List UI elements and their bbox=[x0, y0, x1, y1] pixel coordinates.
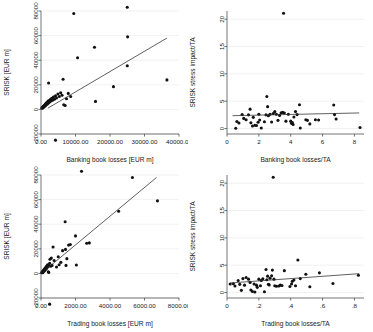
data-point bbox=[238, 283, 241, 286]
y-axis-title: SRISK stress impact/TA bbox=[189, 201, 197, 272]
x-axis-title: Trading book losses [EUR m] bbox=[67, 320, 153, 328]
data-point bbox=[241, 277, 244, 280]
data-point bbox=[272, 176, 275, 179]
data-point bbox=[294, 284, 297, 287]
panel-bottom-left-x-ticks: 0.002000.004000.006000.008000.00 bbox=[35, 298, 188, 309]
data-point bbox=[131, 176, 134, 179]
panel-bottom-left-svg: -200000200004000060000800000.002000.0040… bbox=[0, 164, 188, 332]
data-point bbox=[165, 78, 168, 81]
y-tick-label: 40000 bbox=[32, 51, 39, 69]
y-tick-label: 0 bbox=[32, 107, 39, 111]
y-tick-label: 5 bbox=[218, 99, 225, 103]
y-tick-label: 0 bbox=[218, 290, 225, 294]
data-point bbox=[308, 122, 311, 125]
data-point bbox=[72, 12, 75, 15]
chart-panel-bottom-left: -200000200004000060000800000.002000.0040… bbox=[0, 164, 188, 332]
data-point bbox=[335, 117, 338, 120]
data-point bbox=[62, 78, 65, 81]
x-tick-label: .8 bbox=[352, 302, 358, 309]
x-axis-title: Trading book losses/TA bbox=[261, 320, 330, 328]
data-point bbox=[76, 56, 79, 59]
data-point bbox=[93, 46, 96, 49]
data-point bbox=[263, 120, 266, 123]
data-point bbox=[264, 268, 267, 271]
data-point bbox=[276, 119, 279, 122]
data-point bbox=[308, 285, 311, 288]
x-axis-title: Banking book losses/TA bbox=[260, 156, 331, 164]
y-tick-label: 15 bbox=[218, 207, 225, 214]
data-point bbox=[243, 284, 246, 287]
y-axis-title: SRISK [EUR m] bbox=[3, 49, 11, 96]
data-point bbox=[94, 100, 97, 103]
data-point bbox=[260, 126, 263, 129]
data-point bbox=[284, 120, 287, 123]
y-tick-label: 20 bbox=[218, 179, 225, 186]
data-point bbox=[126, 35, 129, 38]
data-point bbox=[54, 139, 57, 142]
data-point bbox=[64, 220, 67, 223]
data-point bbox=[249, 121, 252, 124]
chart-panel-bottom-right: 051015200.2.4.6.8Trading book losses/TAS… bbox=[186, 164, 373, 332]
data-point bbox=[240, 289, 243, 292]
data-point bbox=[156, 199, 159, 202]
x-tick-label: 4 bbox=[289, 138, 293, 145]
y-tick-label: 60000 bbox=[32, 190, 39, 208]
y-tick-label: 20000 bbox=[32, 240, 39, 258]
x-tick-label: 0.00 bbox=[35, 302, 48, 309]
data-point bbox=[283, 111, 286, 114]
y-axis-title: SRISK stress impact/TA bbox=[189, 37, 197, 108]
panel-bottom-left-y-ticks: -20000020000400006000080000 bbox=[32, 166, 41, 308]
data-point bbox=[237, 122, 240, 125]
data-point bbox=[48, 262, 51, 265]
y-tick-label: 20 bbox=[218, 15, 225, 22]
x-tick-label: 6 bbox=[321, 138, 325, 145]
y-tick-label: 80000 bbox=[32, 2, 39, 20]
data-point bbox=[126, 6, 129, 9]
panel-bottom-right-svg: 051015200.2.4.6.8Trading book losses/TAS… bbox=[186, 164, 373, 332]
panel-top-right-x-ticks: 02468 bbox=[225, 134, 356, 145]
x-tick-label: 0 bbox=[225, 302, 229, 309]
data-point bbox=[270, 274, 273, 277]
data-point bbox=[88, 241, 91, 244]
data-point bbox=[331, 282, 334, 285]
x-tick-label: 2 bbox=[257, 138, 261, 145]
data-point bbox=[50, 256, 53, 259]
x-tick-label: 20000.00 bbox=[97, 138, 123, 145]
data-point bbox=[261, 277, 264, 280]
data-point bbox=[64, 104, 67, 107]
panel-top-right-y-ticks: 05101520 bbox=[218, 15, 227, 130]
data-point bbox=[255, 124, 258, 127]
data-point bbox=[52, 245, 55, 248]
regression-fit-line bbox=[48, 38, 167, 108]
data-point bbox=[58, 95, 61, 98]
data-point bbox=[266, 275, 269, 278]
data-point bbox=[332, 103, 335, 106]
data-point bbox=[64, 248, 67, 251]
data-point bbox=[48, 303, 51, 306]
y-tick-label: 0 bbox=[218, 126, 225, 130]
data-point bbox=[270, 120, 273, 123]
data-point bbox=[304, 273, 307, 276]
y-tick-label: 20000 bbox=[32, 76, 39, 94]
panel-bottom-right-points bbox=[229, 176, 360, 294]
panel-top-left-y-ticks: -20000020000400006000080000 bbox=[32, 2, 41, 144]
data-point bbox=[358, 126, 361, 129]
data-point bbox=[245, 118, 248, 121]
data-point bbox=[55, 96, 58, 99]
data-point bbox=[298, 103, 301, 106]
data-point bbox=[55, 265, 58, 268]
data-point bbox=[318, 271, 321, 274]
x-axis-title: Banking book losses [EUR m] bbox=[66, 156, 153, 164]
y-tick-label: 80000 bbox=[32, 166, 39, 184]
panel-top-left-x-ticks: 0.0010000.0020000.0030000.0040000.00 bbox=[35, 134, 188, 145]
y-tick-label: 0 bbox=[32, 271, 39, 275]
data-point bbox=[290, 283, 293, 286]
data-point bbox=[67, 92, 70, 95]
panel-bottom-right-y-ticks: 05101520 bbox=[218, 179, 227, 294]
data-point bbox=[292, 116, 295, 119]
data-point bbox=[59, 261, 62, 264]
data-point bbox=[69, 243, 72, 246]
data-point bbox=[80, 170, 83, 173]
y-tick-label: 10 bbox=[218, 70, 225, 77]
data-point bbox=[47, 271, 50, 274]
